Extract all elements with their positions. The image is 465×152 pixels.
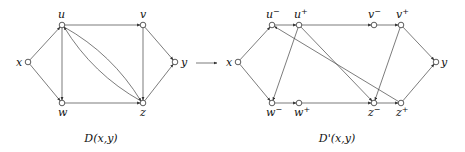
right-edge-z+-to-u- bbox=[274, 26, 398, 101]
left-node-z bbox=[140, 100, 146, 106]
right-node-label-u+: u+ bbox=[294, 7, 308, 21]
right-graph-caption: D'(x,y) bbox=[318, 132, 355, 145]
right-node-label-z-: z− bbox=[367, 105, 381, 119]
right-node-x bbox=[235, 59, 241, 65]
right-graph-nodes: xu−u+v−v+yw−w+z−z+ bbox=[226, 7, 448, 119]
left-node-label-v: v bbox=[140, 8, 147, 21]
right-node-w- bbox=[269, 100, 275, 106]
left-node-u bbox=[59, 22, 65, 28]
right-node-v- bbox=[371, 22, 377, 28]
left-edge-u-to-z bbox=[64, 27, 141, 101]
right-edge-v+-to-z- bbox=[375, 28, 400, 101]
diagram-canvas: xuvywz xu−u+v−v+yw−w+z−z+ D(x,y) D'(x,y) bbox=[0, 0, 465, 152]
right-edge-x-to-w- bbox=[240, 64, 270, 101]
right-edge-u+-to-w- bbox=[273, 28, 298, 101]
left-node-label-w: w bbox=[58, 106, 68, 119]
left-node-y bbox=[172, 59, 178, 65]
right-node-label-x: x bbox=[226, 56, 233, 69]
right-node-y bbox=[433, 59, 439, 65]
right-node-label-y: y bbox=[440, 56, 448, 69]
left-edge-x-to-u bbox=[30, 27, 60, 60]
right-edge-x-to-u- bbox=[240, 27, 270, 60]
right-node-v+ bbox=[398, 22, 404, 28]
left-node-label-z: z bbox=[139, 106, 146, 119]
right-node-label-v+: v+ bbox=[396, 7, 409, 21]
left-graph-edges bbox=[30, 25, 173, 103]
right-node-label-w-: w− bbox=[266, 105, 282, 119]
left-node-w bbox=[59, 100, 65, 106]
left-node-v bbox=[140, 22, 146, 28]
left-node-x bbox=[25, 59, 31, 65]
right-node-label-w+: w+ bbox=[294, 105, 310, 119]
left-edge-x-to-w bbox=[30, 64, 60, 101]
right-edge-z+-to-y bbox=[403, 64, 434, 101]
left-graph-caption: D(x,y) bbox=[83, 132, 117, 145]
left-node-label-x: x bbox=[16, 56, 23, 69]
left-edge-z-to-u bbox=[64, 27, 141, 101]
right-node-label-v-: v− bbox=[368, 7, 381, 21]
right-node-label-z+: z+ bbox=[395, 105, 409, 119]
right-edge-v+-to-y bbox=[403, 27, 434, 60]
right-node-label-u-: u− bbox=[266, 7, 280, 21]
right-node-w+ bbox=[296, 100, 302, 106]
left-edge-z-to-y bbox=[145, 64, 174, 101]
right-node-u- bbox=[269, 22, 275, 28]
right-node-u+ bbox=[296, 22, 302, 28]
left-node-label-y: y bbox=[180, 56, 188, 69]
left-node-label-u: u bbox=[58, 8, 65, 21]
right-graph-edges bbox=[240, 25, 434, 103]
left-edge-v-to-y bbox=[145, 27, 173, 60]
